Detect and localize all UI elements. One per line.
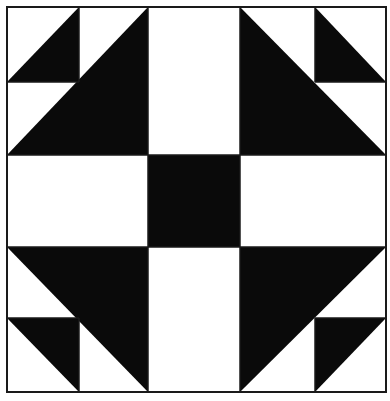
- quilt-block-diagram: [0, 0, 390, 401]
- center-square: [148, 155, 240, 247]
